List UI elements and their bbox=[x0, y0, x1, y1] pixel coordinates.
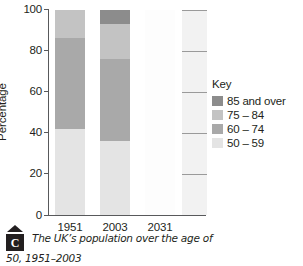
legend-title: Key bbox=[212, 78, 300, 90]
chart-legend: Key 85 and over 75 – 84 60 – 74 50 – 59 bbox=[212, 78, 300, 150]
legend-swatch-60-74 bbox=[212, 124, 223, 134]
bar-2003-segment-50-59 bbox=[100, 141, 130, 215]
legend-label-60-74: 60 – 74 bbox=[227, 123, 264, 135]
bar-1951-segment-50-59 bbox=[55, 129, 85, 215]
bar-2003[interactable] bbox=[100, 10, 130, 216]
bar-2031[interactable] bbox=[145, 10, 175, 216]
legend-item-60-74[interactable]: 60 – 74 bbox=[212, 122, 300, 135]
y-tick-100 bbox=[44, 9, 49, 10]
legend-label-85-and-over: 85 and over bbox=[227, 95, 286, 107]
chart-figure: Percentage 100 80 60 40 20 0 bbox=[0, 0, 303, 266]
legend-swatch-50-59 bbox=[212, 138, 223, 148]
legend-swatch-75-84 bbox=[212, 110, 223, 120]
gridline-20 bbox=[182, 174, 207, 175]
caption-line-2: 50, 1951–2003 bbox=[6, 252, 81, 264]
y-tick-label-60: 60 bbox=[30, 85, 42, 97]
figure-caption: C The UK’s population over the age of 50… bbox=[6, 231, 236, 245]
legend-label-50-59: 50 – 59 bbox=[227, 137, 264, 149]
bar-1951[interactable] bbox=[55, 10, 85, 216]
y-tick-label-100: 100 bbox=[23, 3, 42, 15]
y-tick-label-20: 20 bbox=[30, 167, 42, 179]
y-tick-label-80: 80 bbox=[30, 44, 42, 56]
gridline-40 bbox=[182, 133, 207, 134]
legend-swatch-85-and-over bbox=[212, 96, 223, 106]
y-tick-80 bbox=[44, 50, 49, 51]
gridline-60 bbox=[182, 92, 207, 93]
legend-item-50-59[interactable]: 50 – 59 bbox=[212, 136, 300, 149]
gridline-80 bbox=[182, 51, 207, 52]
y-tick-label-40: 40 bbox=[30, 126, 42, 138]
y-tick-20 bbox=[44, 173, 49, 174]
y-tick-60 bbox=[44, 91, 49, 92]
plot-area: 100 80 60 40 20 0 bbox=[48, 9, 206, 216]
plot-wrapper: 100 80 60 40 20 0 bbox=[48, 9, 206, 216]
y-tick-label-0: 0 bbox=[36, 209, 42, 221]
caption-badge: C bbox=[6, 234, 24, 251]
bar-2003-segment-85-and-over bbox=[100, 10, 130, 24]
bar-2003-segment-60-74 bbox=[100, 59, 130, 141]
legend-item-85-and-over[interactable]: 85 and over bbox=[212, 94, 300, 107]
bar-1951-segment-60-74 bbox=[55, 38, 85, 128]
y-tick-40 bbox=[44, 132, 49, 133]
caption-line-1: The UK’s population over the age of bbox=[32, 231, 236, 245]
legend-item-75-84[interactable]: 75 – 84 bbox=[212, 108, 300, 121]
y-axis-title: Percentage bbox=[0, 83, 8, 141]
caption-arrow-icon bbox=[7, 225, 23, 232]
y-tick-0 bbox=[44, 215, 49, 216]
gridline-100 bbox=[182, 10, 207, 11]
bar-2003-segment-75-84 bbox=[100, 24, 130, 59]
bar-1951-segment-75-84 bbox=[55, 10, 85, 39]
caption-arrow-inner-icon bbox=[19, 223, 29, 228]
plot-right-panel bbox=[182, 10, 207, 216]
legend-label-75-84: 75 – 84 bbox=[227, 109, 264, 121]
